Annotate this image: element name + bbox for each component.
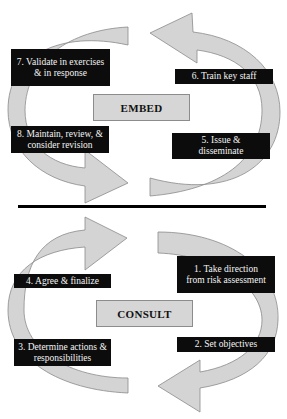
step-8-label: 8. Maintain, review, & consider revision — [14, 129, 106, 151]
step-7-label: 7. Validate in exercises & in response — [14, 57, 107, 79]
step-7-box: 7. Validate in exercises & in response — [11, 49, 110, 86]
embed-phase-box: EMBED — [93, 94, 190, 121]
step-3-label: 3. Determine actions & responsibilities — [17, 342, 108, 364]
phase-divider — [18, 205, 266, 208]
step-5-label: 5. Issue & disseminate — [175, 135, 267, 157]
step-4-box: 4. Agree & finalize — [14, 274, 111, 288]
step-1-box: 1. Take direction from risk assessment — [177, 256, 275, 293]
step-1-label: 1. Take direction from risk assessment — [180, 264, 272, 286]
consult-phase-box: CONSULT — [96, 300, 193, 327]
step-3-box: 3. Determine actions & responsibilities — [14, 339, 111, 366]
step-6-label: 6. Train key staff — [192, 71, 257, 82]
step-2-label: 2. Set objectives — [195, 339, 258, 350]
step-5-box: 5. Issue & disseminate — [172, 133, 270, 159]
consult-phase-label: CONSULT — [117, 308, 171, 320]
step-4-label: 4. Agree & finalize — [26, 276, 99, 287]
embed-phase-label: EMBED — [121, 102, 163, 114]
step-6-box: 6. Train key staff — [175, 69, 273, 84]
step-2-box: 2. Set objectives — [177, 337, 275, 352]
step-8-box: 8. Maintain, review, & consider revision — [11, 126, 109, 153]
